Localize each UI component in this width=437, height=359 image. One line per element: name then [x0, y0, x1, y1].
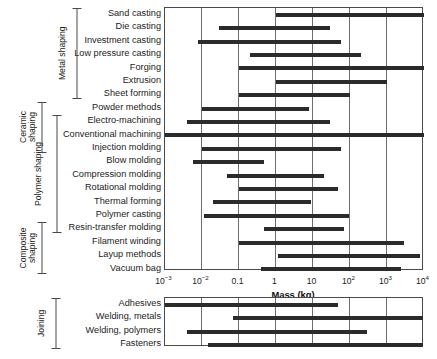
process-mass-range-chart: Sand castingDie castingInvestment castin…	[0, 0, 437, 359]
row-label: Welding, polymers	[86, 326, 161, 335]
gridline-6	[386, 298, 387, 346]
row-label: Welding, metals	[96, 312, 161, 321]
range-bar	[208, 343, 423, 347]
joining-row-labels: AdhesivesWelding, metalsWelding, polymer…	[0, 0, 161, 359]
joining-panel: AdhesivesWelding, metalsWelding, polymer…	[0, 0, 437, 359]
gridline-5	[349, 298, 350, 346]
group-bracket	[51, 298, 61, 350]
row-label: Fasteners	[120, 339, 161, 348]
bracket-cap-top	[52, 298, 61, 299]
range-bar	[233, 316, 424, 320]
bracket-line	[56, 298, 57, 350]
range-bar	[187, 330, 367, 334]
row-label: Adhesives	[119, 299, 161, 308]
bracket-cap-bottom	[52, 348, 61, 349]
range-bar	[165, 303, 339, 307]
group-label: Joining	[37, 297, 46, 349]
joining-plot-area	[164, 297, 423, 347]
